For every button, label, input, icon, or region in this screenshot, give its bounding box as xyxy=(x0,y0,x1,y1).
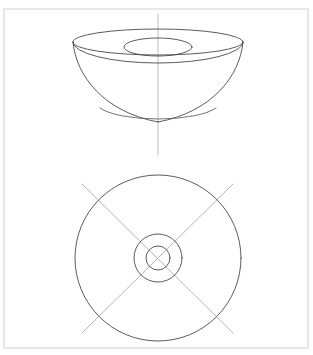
plan-view xyxy=(75,175,241,341)
isometric-view xyxy=(73,14,243,155)
wall-left-profile xyxy=(73,42,158,122)
drawing-frame xyxy=(4,9,308,348)
technical-drawing-canvas xyxy=(0,0,313,355)
drawing-svg xyxy=(0,0,313,355)
wall-right-profile xyxy=(158,42,243,122)
